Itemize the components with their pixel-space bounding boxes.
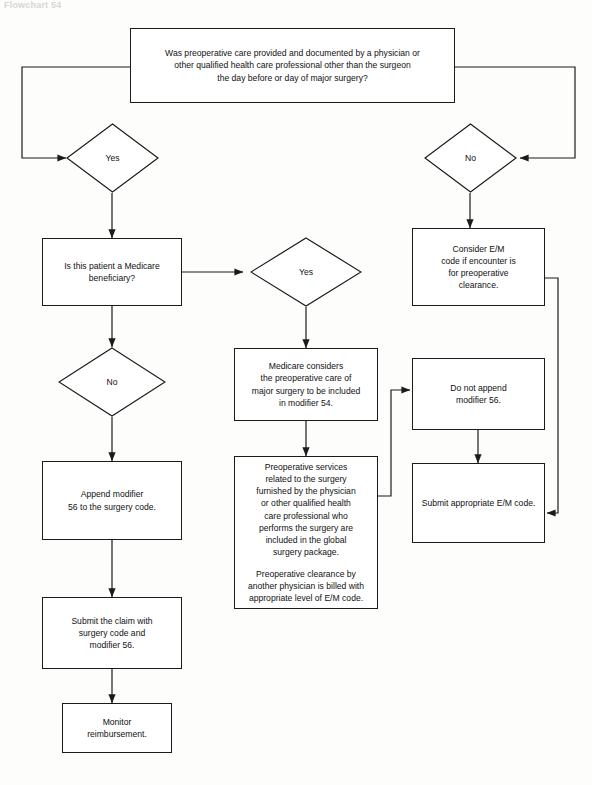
node-consider-em-code: Consider E/M code if encounter is for pr… bbox=[412, 228, 545, 306]
consider-em-line-3: for preoperative bbox=[441, 267, 516, 279]
node-medicare-considers-preoperative-care: Medicare considers the preoperative care… bbox=[234, 348, 378, 421]
preop-p1-line-6: performs the surgery are bbox=[259, 523, 353, 533]
node-monitor-reimbursement: Monitor reimbursement. bbox=[62, 703, 172, 753]
node-decision-no-left: No bbox=[58, 347, 166, 417]
decision-label: No bbox=[107, 377, 118, 387]
submit-claim-line-1: Submit the claim with bbox=[71, 615, 152, 627]
preop-p1-line-1: Preoperative services bbox=[265, 462, 348, 472]
append56-line-1: Append modifier bbox=[68, 488, 156, 500]
do-not-append-line-1: Do not append bbox=[450, 382, 506, 394]
preop-p2-line-2: another physician is billed with bbox=[248, 581, 364, 591]
node-decision-no-right: No bbox=[424, 123, 517, 193]
monitor-line-1: Monitor bbox=[87, 716, 147, 728]
node-do-not-append-modifier-56: Do not append modifier 56. bbox=[412, 358, 545, 430]
medicare-considers-line-2: the preoperative care of bbox=[252, 372, 360, 384]
preop-p1-line-5: care professional who bbox=[264, 511, 348, 521]
q1-line-3: the day before or day of major surgery? bbox=[165, 72, 420, 84]
node-append-modifier-56: Append modifier 56 to the surgery code. bbox=[42, 461, 182, 540]
medicare-considers-line-1: Medicare considers bbox=[252, 360, 360, 372]
wire-preop-services-to-do-not-append bbox=[378, 390, 410, 496]
node-preoperative-services-global-package: Preoperative services related to the sur… bbox=[234, 456, 378, 609]
preop-services-paragraph-2: Preoperative clearance by another physic… bbox=[248, 568, 364, 605]
flowchart-canvas: Flowchart 54 bbox=[0, 0, 592, 785]
decision-label: Yes bbox=[299, 267, 313, 277]
consider-em-line-2: code if encounter is bbox=[441, 255, 516, 267]
node-question-preoperative-care: Was preoperative care provided and docum… bbox=[130, 28, 455, 103]
consider-em-line-4: clearance. bbox=[441, 279, 516, 291]
wire-consider-em-to-submit-em bbox=[545, 278, 558, 513]
consider-em-line-1: Consider E/M bbox=[441, 243, 516, 255]
preop-p1-line-2: related to the surgery bbox=[265, 474, 346, 484]
preop-p1-line-7: included in the global bbox=[266, 535, 347, 545]
node-submit-claim-with-modifier-56: Submit the claim with surgery code and m… bbox=[42, 597, 182, 669]
medicare-considers-line-3: major surgery to be included bbox=[252, 385, 360, 397]
submit-claim-line-3: modifier 56. bbox=[71, 639, 152, 651]
preop-p2-line-3: appropriate level of E/M code. bbox=[249, 593, 363, 603]
node-decision-yes-middle: Yes bbox=[250, 237, 362, 307]
preop-p2-line-1: Preoperative clearance by bbox=[256, 569, 356, 579]
medicare-q-line-1: Is this patient a Medicare bbox=[64, 260, 160, 272]
q1-line-2: other qualified health care professional… bbox=[165, 59, 420, 71]
decision-label: No bbox=[465, 153, 476, 163]
node-question-medicare-beneficiary: Is this patient a Medicare beneficiary? bbox=[42, 238, 182, 306]
preop-p1-line-8: surgery package. bbox=[273, 547, 339, 557]
preop-p1-line-3: furnished by the physician bbox=[256, 486, 355, 496]
do-not-append-line-2: modifier 56. bbox=[450, 394, 506, 406]
node-decision-yes-left: Yes bbox=[66, 123, 159, 193]
preop-services-paragraph-1: Preoperative services related to the sur… bbox=[248, 461, 364, 559]
preop-p1-line-4: or other qualified health bbox=[261, 498, 351, 508]
medicare-considers-line-4: in modifier 54. bbox=[252, 397, 360, 409]
medicare-q-line-2: beneficiary? bbox=[64, 272, 160, 284]
node-submit-appropriate-em-code: Submit appropriate E/M code. bbox=[412, 463, 545, 543]
decision-label: Yes bbox=[105, 153, 119, 163]
page-header-caption: Flowchart 54 bbox=[4, 0, 61, 10]
append56-line-2: 56 to the surgery code. bbox=[68, 501, 156, 513]
submit-claim-line-2: surgery code and bbox=[71, 627, 152, 639]
monitor-line-2: reimbursement. bbox=[87, 728, 147, 740]
q1-line-1: Was preoperative care provided and docum… bbox=[165, 47, 420, 59]
submit-em-line-1: Submit appropriate E/M code. bbox=[422, 497, 536, 509]
